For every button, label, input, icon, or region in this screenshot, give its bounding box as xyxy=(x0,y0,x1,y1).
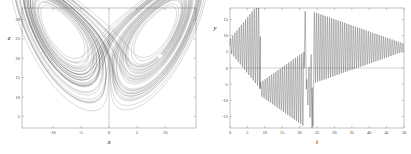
svg-text:45: 45 xyxy=(384,130,388,135)
svg-text:25: 25 xyxy=(314,130,318,135)
svg-text:15: 15 xyxy=(16,75,20,80)
svg-text:5: 5 xyxy=(225,49,227,54)
svg-text:-15: -15 xyxy=(222,114,228,119)
svg-text:20: 20 xyxy=(297,130,301,135)
lorenz-figure: -10-5051051015202530 x z 051015202530354… xyxy=(0,0,411,154)
phase-portrait-svg: -10-5051051015202530 x z xyxy=(0,0,206,154)
svg-text:15: 15 xyxy=(223,17,227,22)
svg-text:5: 5 xyxy=(18,114,20,119)
svg-text:5: 5 xyxy=(246,130,248,135)
svg-text:10: 10 xyxy=(223,33,227,38)
time-xaxis-label: t xyxy=(316,138,319,146)
phase-portrait-panel: -10-5051051015202530 x z xyxy=(0,0,206,154)
svg-text:-5: -5 xyxy=(224,82,228,87)
time-series-panel: 05101520253035404550-15-10-5051015 t y xyxy=(206,0,411,154)
svg-text:10: 10 xyxy=(163,130,167,135)
svg-text:-5: -5 xyxy=(79,130,83,135)
svg-text:10: 10 xyxy=(262,130,266,135)
svg-text:25: 25 xyxy=(16,36,20,41)
svg-text:0: 0 xyxy=(108,130,110,135)
svg-text:15: 15 xyxy=(280,130,284,135)
svg-text:5: 5 xyxy=(136,130,138,135)
phase-xaxis-label: x xyxy=(106,138,111,146)
svg-text:-10: -10 xyxy=(50,130,56,135)
svg-text:20: 20 xyxy=(16,56,20,61)
svg-text:50: 50 xyxy=(401,130,405,135)
time-series-svg: 05101520253035404550-15-10-5051015 t y xyxy=(206,0,411,154)
svg-text:0: 0 xyxy=(225,66,227,71)
svg-text:-10: -10 xyxy=(222,98,228,103)
svg-text:35: 35 xyxy=(349,130,353,135)
phase-yaxis-label: z xyxy=(7,34,11,42)
svg-text:10: 10 xyxy=(16,95,20,100)
svg-text:0: 0 xyxy=(228,130,230,135)
time-yaxis-label: y xyxy=(212,24,217,32)
svg-text:40: 40 xyxy=(367,130,371,135)
svg-text:30: 30 xyxy=(332,130,336,135)
